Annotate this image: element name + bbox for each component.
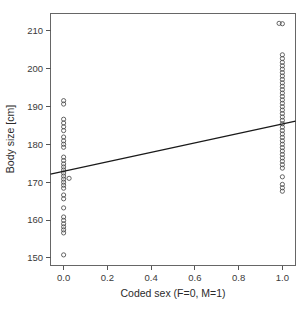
data-point xyxy=(67,176,71,180)
chart-canvas: 150160170180190200210 0.00.20.40.60.81.0… xyxy=(0,0,306,315)
data-point xyxy=(62,145,66,149)
x-tick-label: 0.2 xyxy=(101,272,114,283)
x-tick-label: 0.8 xyxy=(232,272,245,283)
data-point xyxy=(62,231,66,235)
x-tick-label: 0.0 xyxy=(57,272,70,283)
y-tick-label: 200 xyxy=(27,63,43,74)
y-tick-label: 190 xyxy=(27,101,43,112)
data-point xyxy=(280,175,284,179)
y-tick-label: 160 xyxy=(27,214,43,225)
plot-box-border xyxy=(51,14,296,266)
scatter-plot-figure: 150160170180190200210 0.00.20.40.60.81.0… xyxy=(0,0,306,315)
regression-fit-line xyxy=(51,121,296,174)
x-axis-title: Coded sex (F=0, M=1) xyxy=(120,287,225,299)
y-tick-label: 180 xyxy=(27,139,43,150)
plot-frame xyxy=(51,14,296,266)
x-tick-label: 0.4 xyxy=(145,272,158,283)
data-point xyxy=(62,253,66,257)
x-axis-ticks: 0.00.20.40.60.81.0 xyxy=(57,266,289,284)
data-point xyxy=(62,206,66,210)
data-points-layer xyxy=(62,21,285,257)
y-tick-label: 210 xyxy=(27,25,43,36)
regression-line-layer xyxy=(51,121,296,174)
x-tick-label: 1.0 xyxy=(276,272,289,283)
y-axis-ticks: 150160170180190200210 xyxy=(27,25,50,263)
y-tick-label: 150 xyxy=(27,252,43,263)
y-tick-label: 170 xyxy=(27,177,43,188)
data-point xyxy=(62,186,66,190)
x-tick-label: 0.6 xyxy=(188,272,201,283)
y-axis-title: Body size [cm] xyxy=(4,105,16,173)
